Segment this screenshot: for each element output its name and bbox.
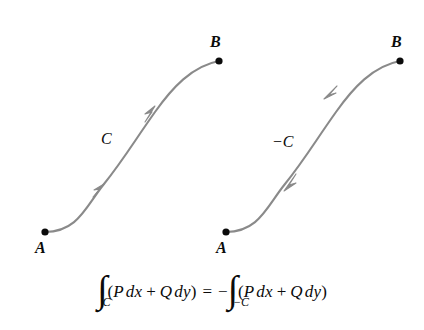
left-point-b-label: B: [210, 34, 221, 50]
left-point-a-label: A: [35, 240, 46, 256]
integral-subscript-lhs: C: [102, 296, 110, 308]
right-curve-path: [226, 61, 400, 232]
rhs-negative-sign: −: [218, 282, 228, 302]
right-curve-label: −C: [272, 134, 293, 150]
lhs-term1-diff: dx: [126, 282, 142, 302]
left-point-b-dot: [215, 57, 222, 64]
rhs-close-paren: ): [321, 282, 327, 302]
lhs-plus: +: [142, 282, 160, 302]
integral-subscript-rhs: −C: [233, 296, 249, 308]
left-point-a-dot: [41, 228, 48, 235]
rhs-term2-fn: Q: [290, 282, 302, 302]
equals-sign: =: [196, 282, 218, 302]
equation-row: ∫ C ( P dx + Q dy ) = − ∫ −C ( P dx + Q: [97, 277, 327, 307]
left-curve-arrow-lower: [93, 184, 104, 197]
integral-sign-rhs: ∫ −C: [228, 275, 238, 305]
rhs-plus: +: [273, 282, 291, 302]
right-point-b-dot: [396, 57, 403, 64]
rhs-term2-diff: dy: [305, 282, 321, 302]
right-point-a-label: A: [216, 240, 227, 256]
right-point-b-label: B: [391, 34, 402, 50]
integral-sign-lhs: ∫ C: [97, 275, 107, 305]
right-curve-group: [222, 57, 403, 235]
lhs-term1-fn: P: [113, 282, 124, 302]
equation: ∫ C ( P dx + Q dy ) = − ∫ −C ( P dx + Q: [0, 264, 424, 320]
right-curve-arrow-upper: [324, 86, 337, 99]
left-curve-path: [45, 61, 219, 232]
right-point-a-dot: [222, 228, 229, 235]
left-curve-label: C: [101, 131, 112, 147]
left-curve-group: [41, 57, 222, 235]
line-integral-figure: A B C A B −C ∫ C ( P dx + Q dy ) = − ∫ −…: [0, 0, 424, 330]
rhs-term1-diff: dx: [256, 282, 272, 302]
lhs-term2-fn: Q: [160, 282, 172, 302]
lhs-term2-diff: dy: [174, 282, 190, 302]
